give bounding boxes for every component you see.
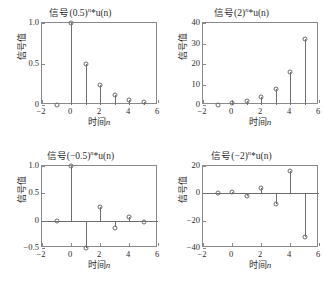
x-axis-label-text: 时间 xyxy=(88,117,106,127)
x-axis-label: 时间n xyxy=(41,258,157,271)
x-axis-label-var: n xyxy=(267,117,272,127)
x-axis-label-text: 时间 xyxy=(249,117,267,127)
x-axis-label-text: 时间 xyxy=(249,260,267,270)
chart-panel-bottom-right: 信号(−2)n*u(n) 信号值 −40−20020 −20246 时间n xyxy=(161,143,322,286)
chart-panel-top-left: 信号(0.5)n*u(n) 信号值 00.51.0 −20246 时间n xyxy=(0,0,161,143)
chart-panel-top-right: 信号(2)n*u(n) 信号值 010203040 −20246 时间n xyxy=(161,0,322,143)
x-axis-label-var: n xyxy=(106,117,111,127)
x-axis-label-var: n xyxy=(106,260,111,270)
x-axis-label-var: n xyxy=(267,260,272,270)
x-axis-label: 时间n xyxy=(202,115,318,128)
stem-plot-figure: 信号(0.5)n*u(n) 信号值 00.51.0 −20246 时间n 信号(… xyxy=(0,0,323,286)
chart-panel-bottom-left: 信号(−0.5)n*u(n) 信号值 −0.500.51.0 −20246 时间… xyxy=(0,143,161,286)
x-axis-label: 时间n xyxy=(41,115,157,128)
x-axis-label-text: 时间 xyxy=(88,260,106,270)
x-axis-label: 时间n xyxy=(202,258,318,271)
